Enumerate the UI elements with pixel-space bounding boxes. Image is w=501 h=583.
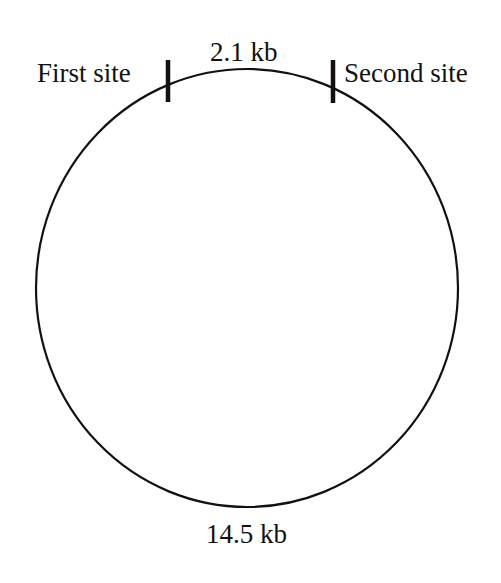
small-fragment-label: 2.1 kb: [210, 37, 278, 67]
second-site-label: Second site: [344, 58, 468, 88]
first-site-label: First site: [37, 58, 131, 88]
plasmid-diagram: First site Second site 2.1 kb 14.5 kb: [0, 0, 501, 583]
plasmid-circle: [36, 69, 458, 507]
large-fragment-label: 14.5 kb: [206, 519, 287, 549]
